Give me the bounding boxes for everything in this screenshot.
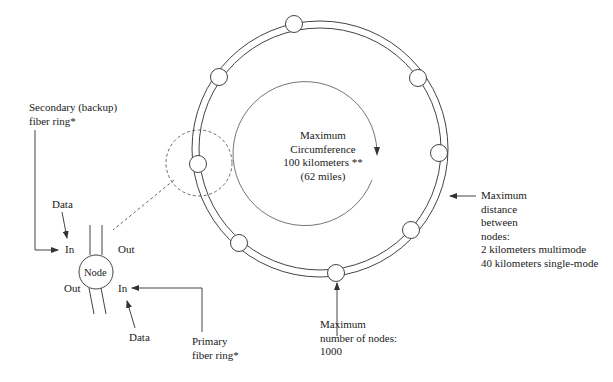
data-top-label: Data	[52, 198, 73, 212]
circumference-line-4: (62 miles)	[268, 170, 378, 184]
data-bottom-label: Data	[129, 331, 150, 345]
ring-node-top	[286, 16, 303, 33]
ring-node-upper-right	[410, 70, 427, 87]
ring-node-bottom	[328, 265, 345, 282]
circumference-line-3: 100 kilometers **	[268, 156, 378, 170]
data-bottom-arrow	[127, 301, 135, 328]
data-top-arrow	[62, 212, 67, 238]
out-top-label: Out	[118, 243, 135, 257]
circumference-line-1: Maximum	[268, 129, 378, 143]
in-top-label: In	[65, 243, 74, 257]
ring-node-right	[431, 145, 448, 162]
zoom-leader-line	[113, 180, 174, 230]
secondary-ring-label: Secondary (backup) fiber ring*	[29, 101, 117, 128]
in-bottom-label: In	[118, 282, 127, 296]
max-distance-label: Maximum distance between nodes: 2 kilome…	[481, 189, 598, 270]
max-nodes-label: Maximum number of nodes: 1000	[320, 318, 397, 359]
out-bottom-label: Out	[64, 282, 81, 296]
ring-node-lower-right	[403, 222, 420, 239]
ring-node-lower-left	[231, 235, 248, 252]
ring-node-upper-left	[211, 69, 228, 86]
circumference-line-2: Circumference	[268, 143, 378, 157]
node-label: Node	[84, 266, 107, 280]
secondary-ring-leader	[35, 130, 58, 250]
ring-node-left	[190, 156, 207, 173]
primary-ring-label: Primary fiber ring*	[192, 335, 239, 362]
circumference-label: Maximum Circumference 100 kilometers ** …	[268, 129, 378, 183]
primary-ring-leader	[132, 288, 202, 332]
